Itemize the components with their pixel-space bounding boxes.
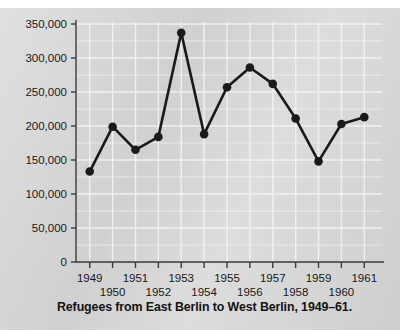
- x-tick-label: 1950: [100, 286, 126, 298]
- x-tick-label: 1949: [77, 272, 103, 284]
- data-point-marker: [177, 29, 186, 38]
- chart-axes: [76, 20, 384, 262]
- x-tick-label: 1961: [351, 272, 377, 284]
- data-point-marker: [314, 157, 323, 166]
- y-tick-label: 100,000: [25, 188, 67, 200]
- y-tick-label: 350,000: [25, 18, 67, 30]
- x-tick-label: 1959: [306, 272, 332, 284]
- data-point-marker: [108, 122, 117, 131]
- x-axis-tick-labels: 1949195019511952195319541955195619571958…: [77, 272, 377, 298]
- x-tick-label: 1954: [191, 286, 217, 298]
- data-point-marker: [85, 167, 94, 176]
- line-chart: 050,000100,000150,000200,000250,000300,0…: [0, 0, 409, 332]
- figure-root: 050,000100,000150,000200,000250,000300,0…: [0, 0, 409, 332]
- y-tick-label: 250,000: [25, 86, 67, 98]
- x-tick-label: 1955: [214, 272, 240, 284]
- data-point-marker: [154, 133, 163, 142]
- data-point-marker: [291, 114, 300, 123]
- y-tick-label: 150,000: [25, 154, 67, 166]
- y-tick-label: 200,000: [25, 120, 67, 132]
- x-tick-label: 1951: [123, 272, 149, 284]
- x-tick-label: 1953: [168, 272, 194, 284]
- y-tick-label: 50,000: [32, 222, 67, 234]
- data-point-marker: [360, 113, 369, 122]
- data-point-marker: [337, 120, 346, 129]
- data-point-marker: [223, 83, 232, 92]
- data-point-marker: [131, 146, 140, 155]
- data-point-marker: [268, 80, 277, 89]
- y-axis-tick-labels: 050,000100,000150,000200,000250,000300,0…: [25, 18, 67, 268]
- x-tick-label: 1960: [329, 286, 355, 298]
- x-tick-label: 1958: [283, 286, 309, 298]
- y-tick-label: 300,000: [25, 52, 67, 64]
- x-axis-ticks: [90, 262, 365, 268]
- x-tick-label: 1956: [237, 286, 263, 298]
- x-tick-label: 1957: [260, 272, 286, 284]
- data-point-marker: [246, 63, 255, 72]
- y-tick-label: 0: [61, 256, 67, 268]
- y-axis-ticks: [71, 24, 76, 262]
- data-point-marker: [200, 130, 209, 139]
- x-tick-label: 1952: [146, 286, 172, 298]
- figure-caption: Refugees from East Berlin to West Berlin…: [0, 300, 409, 314]
